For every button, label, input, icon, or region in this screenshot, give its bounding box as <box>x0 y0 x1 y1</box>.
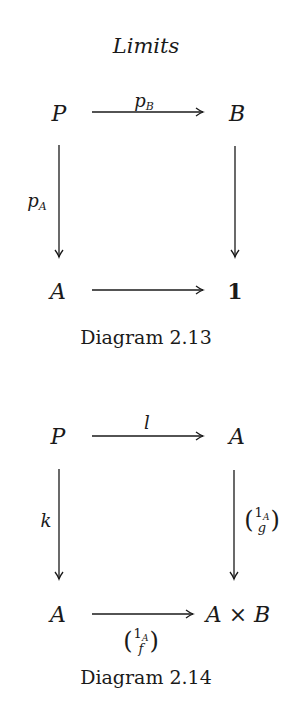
paren-open: ( <box>123 629 132 653</box>
caption-diagram-2-13: Diagram 2.13 <box>0 326 292 348</box>
label-pair-1A-g: ( 1A g ) <box>244 507 280 534</box>
label-l: l <box>144 412 150 433</box>
node-B: B <box>229 101 245 126</box>
morphism-g: g <box>258 521 266 533</box>
identity-1: 1 <box>255 505 263 520</box>
node-A-top-right: A <box>229 424 245 449</box>
paren-close: ) <box>149 629 158 653</box>
label-pA-subscript: A <box>39 200 47 213</box>
node-P: P <box>52 101 67 126</box>
label-pB-base: p <box>134 90 146 111</box>
caption-diagram-2-14: Diagram 2.14 <box>0 666 292 688</box>
node-A-bottom-left: A <box>50 602 66 627</box>
paren-open: ( <box>244 508 253 532</box>
node-A: A <box>50 279 66 304</box>
node-P: P <box>51 424 66 449</box>
label-pA-base: p <box>27 190 39 211</box>
page-header-title: Limits <box>0 34 292 58</box>
label-pA: pA <box>27 190 46 213</box>
node-A-times-B: A × B <box>206 602 270 627</box>
identity-1: 1 <box>134 626 142 641</box>
morphism-f: f <box>139 642 144 654</box>
label-pB: pB <box>134 90 154 113</box>
paren-close: ) <box>270 508 279 532</box>
node-terminal-1: 1 <box>227 278 242 304</box>
label-pB-subscript: B <box>146 100 154 113</box>
label-pair-1A-f: ( 1A f ) <box>123 628 159 655</box>
label-k: k <box>41 510 52 531</box>
